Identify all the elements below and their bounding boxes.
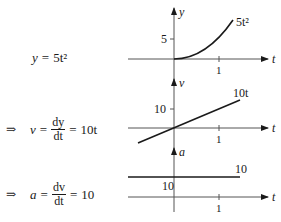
t-axis-label: t [272, 121, 276, 135]
graphs-canvas: y t 5 1 5t² v t 10 1 10t a t 10 1 10 [0, 0, 281, 222]
curve-label: 10 [235, 162, 247, 176]
parabola-curve [174, 20, 233, 59]
y-tick-label: 5 [161, 32, 167, 46]
t-axis-label: t [272, 190, 276, 204]
t-tick-label: 1 [216, 64, 222, 76]
a-value-label: 10 [162, 179, 174, 193]
curve-label: 10t [233, 86, 249, 100]
t-axis-label: t [272, 52, 276, 66]
graph-velocity: v t 10 1 10t [128, 76, 276, 150]
a-axis-label: a [179, 145, 185, 159]
t-tick-label: 1 [216, 202, 222, 214]
t-tick-label: 1 [216, 133, 222, 145]
graph-acceleration: a t 10 1 10 [128, 145, 276, 214]
graph-position: y t 5 1 5t² [128, 5, 276, 80]
v-axis-label: v [179, 76, 185, 90]
y-axis-label: y [178, 5, 185, 19]
curve-label: 5t² [236, 15, 249, 29]
v-tick-label: 10 [154, 102, 166, 116]
